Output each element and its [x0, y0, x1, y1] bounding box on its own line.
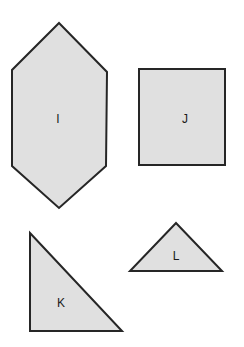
shapes-figure: I J K L: [0, 0, 244, 347]
shape-label-l: L: [173, 249, 180, 263]
shape-triangle-l[interactable]: [130, 223, 222, 271]
shapes-canvas: I J K L: [0, 0, 244, 347]
shape-triangle-k[interactable]: [30, 233, 122, 331]
shape-label-i: I: [56, 112, 59, 126]
shape-label-j: J: [182, 112, 188, 126]
shape-label-k: K: [57, 296, 65, 310]
